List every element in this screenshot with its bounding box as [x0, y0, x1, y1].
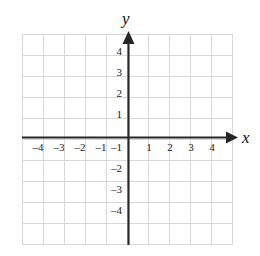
x-tick-label--3: –3: [50, 142, 68, 153]
y-tick-label-1: 1: [108, 109, 122, 120]
y-tick-label--3: –3: [104, 184, 122, 195]
y-tick-label--2: –2: [104, 163, 122, 174]
x-tick-label-4: 4: [203, 142, 221, 153]
x-axis-name: x: [242, 129, 250, 146]
x-tick-label-1: 1: [140, 142, 158, 153]
y-axis-name: y: [122, 10, 130, 27]
y-tick-label--4: –4: [104, 205, 122, 216]
x-tick-label--2: –2: [71, 142, 89, 153]
coordinate-plane-figure: –4 –3 –2 –1 1 2 3 4 4 3 2 1 –1 –2 –3 –4 …: [0, 0, 260, 256]
y-tick-label--1: –1: [104, 142, 122, 153]
y-tick-label-2: 2: [108, 88, 122, 99]
y-tick-label-3: 3: [108, 67, 122, 78]
x-tick-label-2: 2: [161, 142, 179, 153]
x-tick-label-3: 3: [182, 142, 200, 153]
y-tick-label-4: 4: [108, 46, 122, 57]
grid-and-axes: [0, 0, 260, 256]
x-tick-label--4: –4: [29, 142, 47, 153]
